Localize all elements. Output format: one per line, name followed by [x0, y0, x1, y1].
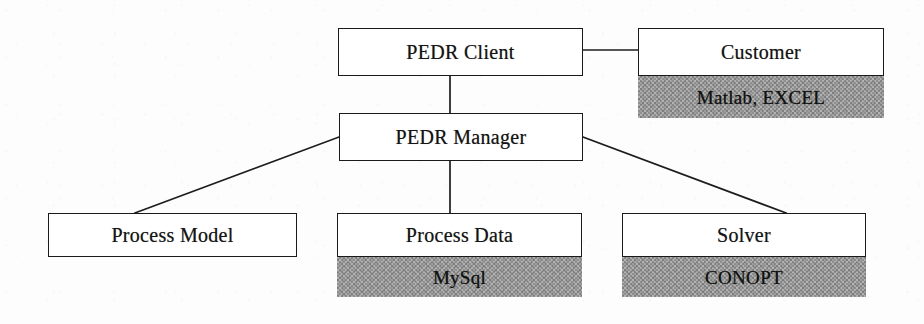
- node-customer-label: Customer: [721, 42, 801, 62]
- diagram-canvas: PEDR ClientCustomerMatlab, EXCELPEDR Man…: [0, 0, 924, 324]
- node-pedr-manager-box[interactable]: PEDR Manager: [339, 113, 583, 161]
- node-customer-box[interactable]: Customer: [638, 28, 884, 76]
- node-pedr-client-label: PEDR Client: [406, 42, 514, 62]
- node-process-data-implementation-label: MySql: [433, 268, 486, 287]
- connector-manager-to-solver: [583, 137, 786, 213]
- node-process-model-box[interactable]: Process Model: [48, 213, 297, 257]
- node-solver-implementation-box: CONOPT: [622, 257, 866, 297]
- node-process-data[interactable]: Process DataMySql: [337, 213, 582, 297]
- node-pedr-manager-label: PEDR Manager: [396, 127, 527, 147]
- node-process-data-box[interactable]: Process Data: [337, 213, 582, 257]
- node-solver-box[interactable]: Solver: [622, 213, 866, 257]
- node-customer-implementation-box: Matlab, EXCEL: [638, 76, 884, 118]
- node-process-model-label: Process Model: [111, 225, 233, 245]
- node-pedr-manager[interactable]: PEDR Manager: [339, 113, 583, 161]
- node-solver-label: Solver: [717, 225, 771, 245]
- node-process-data-implementation-box: MySql: [337, 257, 582, 297]
- node-solver-implementation-label: CONOPT: [705, 268, 783, 287]
- node-customer[interactable]: CustomerMatlab, EXCEL: [638, 28, 884, 118]
- node-process-data-label: Process Data: [406, 225, 513, 245]
- node-pedr-client[interactable]: PEDR Client: [338, 28, 583, 76]
- connector-manager-to-process-model: [135, 137, 339, 213]
- node-customer-implementation-label: Matlab, EXCEL: [697, 88, 825, 107]
- node-solver[interactable]: SolverCONOPT: [622, 213, 866, 297]
- node-process-model[interactable]: Process Model: [48, 213, 297, 257]
- node-pedr-client-box[interactable]: PEDR Client: [338, 28, 583, 76]
